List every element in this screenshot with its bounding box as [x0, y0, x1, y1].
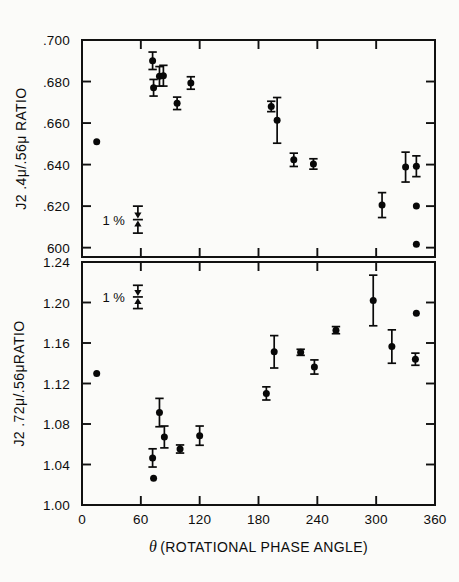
data-marker: [156, 409, 163, 416]
data-marker: [413, 163, 420, 170]
top-panel-data-point: [309, 159, 317, 169]
data-marker: [274, 117, 281, 124]
top-panel-data-point: [187, 77, 195, 89]
bottom-panel-data-point: [150, 475, 157, 482]
bottom-panel-y-tick-label: 1.12: [43, 377, 70, 392]
top-panel-data-point: [159, 65, 167, 86]
bottom-panel-y-tick-label: 1.24: [43, 255, 70, 270]
x-tick-label: 240: [306, 512, 329, 527]
bottom-panel-data-point: [176, 445, 184, 453]
bottom-panel-data-point: [155, 398, 163, 426]
scale-marker-arrow-down: [134, 213, 141, 219]
data-marker: [413, 241, 420, 248]
bottom-panel-data-point: [195, 426, 203, 445]
top-panel-scale-marker: 1 %: [102, 206, 142, 233]
bottom-panel-y-axis-title: J2 .72μ/.56μRATIO: [11, 320, 27, 446]
top-panel-data-point: [401, 152, 409, 182]
scale-marker-label: 1 %: [102, 290, 125, 305]
data-marker: [161, 433, 168, 440]
data-marker: [332, 327, 339, 334]
data-marker: [412, 356, 419, 363]
bottom-panel-data-point: [411, 353, 419, 365]
data-marker: [196, 432, 203, 439]
data-marker: [150, 475, 157, 482]
scale-marker-arrow-up: [134, 298, 141, 304]
top-panel-data-point: [173, 97, 181, 109]
data-marker: [388, 343, 395, 350]
top-panel-data-series: [93, 52, 420, 248]
x-tick-label: 120: [188, 512, 211, 527]
data-marker: [93, 138, 100, 145]
bottom-panel-y-tick-label: 1.20: [43, 296, 70, 311]
x-tick-label: 300: [365, 512, 388, 527]
top-panel-y-tick-label: 600: [47, 241, 70, 256]
data-marker: [379, 202, 386, 209]
top-panel-y-tick-label: .660: [43, 116, 70, 131]
data-marker: [413, 203, 420, 210]
data-marker: [268, 103, 275, 110]
x-tick-label: 180: [247, 512, 270, 527]
bottom-panel-data-series: [93, 275, 420, 482]
x-axis-ticks: 060120180240300360: [78, 40, 446, 527]
bottom-panel-data-point: [270, 336, 278, 368]
x-axis-title: θ(ROTATIONAL PHASE ANGLE): [149, 538, 368, 555]
bottom-panel-y-tick-label: 1.08: [43, 417, 70, 432]
bottom-panel-y-tick-label: 1.00: [43, 498, 70, 513]
data-marker: [149, 454, 156, 461]
theta-symbol: θ: [149, 538, 157, 555]
top-panel-y-tick-label: .640: [43, 158, 70, 173]
top-panel-data-point: [273, 98, 281, 144]
x-tick-label: 360: [423, 512, 446, 527]
top-panel-data-point: [149, 79, 157, 96]
bottom-panel-scale-marker: 1 %: [102, 285, 142, 308]
bottom-panel-data-point: [148, 449, 156, 467]
top-panel-frame: [82, 40, 435, 257]
top-panel-data-point: [413, 241, 420, 248]
bottom-panel-data-point: [160, 426, 168, 448]
bottom-panel-data-point: [369, 275, 377, 326]
top-panel-data-point: [378, 193, 386, 218]
top-panel-data-point: [290, 153, 298, 166]
scatter-plot-figure: .700.680.660.640.6206001.241.201.161.121…: [0, 0, 459, 582]
bottom-panel-data-point: [310, 360, 318, 374]
bottom-panel-frame: [82, 262, 435, 505]
axes-frame: [82, 40, 435, 505]
bottom-panel-data-point: [332, 327, 340, 334]
data-marker: [174, 100, 181, 107]
data-marker: [187, 79, 194, 86]
data-marker: [93, 370, 100, 377]
top-panel-y-axis-title: J2 .4μ/.56μ RATIO: [13, 87, 29, 209]
data-marker: [311, 363, 318, 370]
top-panel-data-point: [413, 203, 420, 210]
figure-canvas: .700.680.660.640.6206001.241.201.161.121…: [0, 0, 459, 582]
data-marker: [297, 349, 304, 356]
data-marker: [310, 160, 317, 167]
bottom-panel-y-tick-label: 1.04: [43, 458, 70, 473]
data-marker: [271, 348, 278, 355]
data-marker: [290, 156, 297, 163]
x-tick-label: 60: [133, 512, 148, 527]
data-marker: [370, 297, 377, 304]
data-marker: [160, 72, 167, 79]
top-panel-data-point: [412, 156, 420, 177]
data-marker: [413, 310, 420, 317]
data-marker: [263, 390, 270, 397]
top-panel-data-point: [93, 138, 100, 145]
bottom-panel-data-point: [388, 330, 396, 363]
top-panel-data-point: [267, 101, 275, 111]
top-panel-y-tick-label: .620: [43, 199, 70, 214]
scale-marker-arrow-down: [134, 290, 141, 296]
scale-marker-label: 1 %: [102, 213, 125, 228]
bottom-panel-y-tick-label: 1.16: [43, 336, 70, 351]
bottom-panel-data-point: [93, 370, 100, 377]
bottom-panel-data-point: [413, 310, 420, 317]
data-marker: [402, 164, 409, 171]
top-panel-y-tick-label: .700: [43, 33, 70, 48]
top-panel-y-tick-label: .680: [43, 75, 70, 90]
x-tick-label: 0: [78, 512, 86, 527]
data-marker: [149, 57, 156, 64]
x-axis-title-text: (ROTATIONAL PHASE ANGLE): [160, 539, 368, 555]
scale-marker-arrow-up: [134, 221, 141, 227]
data-marker: [177, 446, 184, 453]
bottom-panel-data-point: [296, 349, 304, 356]
